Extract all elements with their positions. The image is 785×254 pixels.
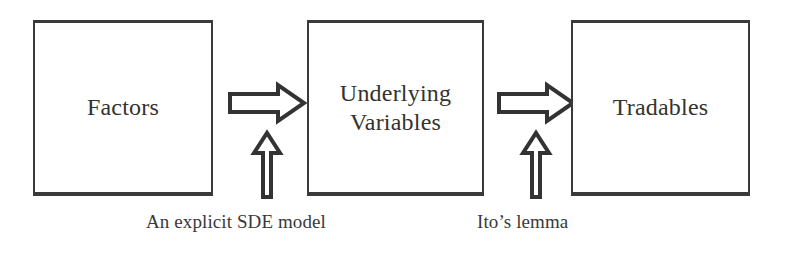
node-tradables: Tradables (571, 20, 750, 196)
node-tradables-label: Tradables (613, 93, 709, 121)
node-underlying-variables: Underlying Variables (307, 20, 484, 196)
caption-sde-model: An explicit SDE model (146, 211, 326, 233)
diagram-canvas: Factors Underlying Variables Tradables A… (0, 0, 785, 254)
arrow-underlying-to-tradables-icon (497, 83, 575, 123)
node-underlying-variables-label: Underlying Variables (340, 79, 451, 136)
arrow-factors-to-underlying-icon (228, 83, 306, 123)
node-factors-label: Factors (87, 93, 159, 121)
arrow-sde-model-up-icon (252, 131, 282, 199)
arrow-ito-lemma-up-icon (521, 131, 551, 199)
node-factors: Factors (33, 20, 213, 196)
caption-ito-lemma: Ito’s lemma (477, 211, 568, 233)
